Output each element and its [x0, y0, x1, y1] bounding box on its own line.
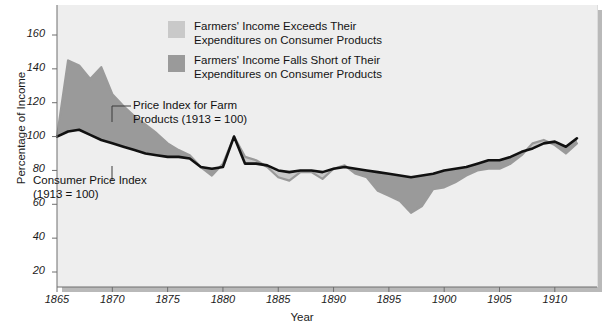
x-tick-label: 1870	[89, 293, 135, 305]
y-tick-label: 140	[11, 61, 45, 73]
annotation-farm-line1: Price Index for Farm	[133, 99, 247, 113]
legend-swatch-deficit	[168, 55, 185, 72]
legend-label-surplus: Farmers' Income Exceeds Their Expenditur…	[194, 20, 382, 47]
legend-item-deficit: Farmers' Income Falls Short of Their Exp…	[168, 54, 382, 81]
chart-legend: Farmers' Income Exceeds Their Expenditur…	[168, 20, 382, 88]
y-tick-label: 100	[11, 129, 45, 141]
y-tick-label: 40	[11, 230, 45, 242]
x-tick-label: 1865	[34, 293, 80, 305]
y-tick-label: 160	[11, 27, 45, 39]
legend-label-surplus-line1: Farmers' Income Exceeds Their	[194, 20, 382, 34]
annotation-farm-line2: Products (1913 = 100)	[133, 113, 247, 127]
legend-label-deficit-line1: Farmers' Income Falls Short of Their	[194, 54, 382, 68]
annotation-cpi-line1: Consumer Price Index	[33, 174, 147, 188]
x-tick-label: 1890	[311, 293, 357, 305]
legend-item-surplus: Farmers' Income Exceeds Their Expenditur…	[168, 20, 382, 47]
x-tick-label: 1910	[532, 293, 578, 305]
x-tick-label: 1900	[421, 293, 467, 305]
x-tick-label: 1905	[477, 293, 523, 305]
x-tick-label: 1875	[145, 293, 191, 305]
legend-label-deficit-line2: Expenditures on Consumer Products	[194, 68, 382, 82]
chart-figure: Percentage of Income Year 20406080100120…	[0, 0, 604, 332]
x-axis-label: Year	[0, 311, 604, 323]
y-tick-label: 120	[11, 95, 45, 107]
legend-swatch-surplus	[168, 21, 185, 38]
annotation-consumer-price-index: Consumer Price Index (1913 = 100)	[33, 174, 147, 201]
annotation-cpi-line2: (1913 = 100)	[33, 188, 147, 202]
x-tick-label: 1895	[366, 293, 412, 305]
annotation-farm-price-index: Price Index for Farm Products (1913 = 10…	[133, 99, 247, 126]
y-tick-label: 20	[11, 264, 45, 276]
legend-label-deficit: Farmers' Income Falls Short of Their Exp…	[194, 54, 382, 81]
y-tick-label: 80	[11, 162, 45, 174]
x-tick-label: 1880	[200, 293, 246, 305]
legend-label-surplus-line2: Expenditures on Consumer Products	[194, 34, 382, 48]
x-tick-label: 1885	[255, 293, 301, 305]
